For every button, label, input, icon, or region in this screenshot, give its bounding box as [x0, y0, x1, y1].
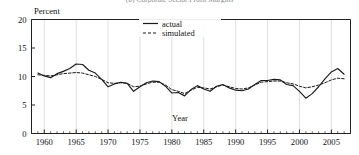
x-tick-label: 2005	[323, 137, 340, 147]
x-axis-ticks	[44, 130, 331, 134]
series-line-actual	[38, 64, 344, 98]
x-tick-label: 1975	[131, 137, 148, 147]
x-tick-label: 1990	[227, 137, 244, 147]
x-axis-label: Year	[172, 113, 188, 123]
x-tick-label: 2000	[291, 137, 308, 147]
x-tick-label: 1985	[195, 137, 212, 147]
legend-label-simulated: simulated	[162, 29, 195, 38]
x-axis-tick-labels: 1960196519701975198019851990199520002005	[36, 137, 340, 147]
legend-label-actual: actual	[162, 20, 183, 29]
y-axis-ticks	[32, 20, 36, 134]
x-tick-label: 1980	[163, 137, 180, 147]
y-axis-tick-labels: 05101520	[18, 15, 27, 139]
y-axis-label: Percent	[34, 6, 60, 16]
chart-canvas: 05101520 1960196519701975198019851990199…	[0, 0, 359, 155]
y-tick-label: 10	[18, 72, 27, 82]
y-tick-label: 15	[18, 43, 27, 53]
y-tick-label: 5	[22, 100, 26, 110]
figure-title: (b) Corporate Sector Profit Margins	[0, 0, 359, 3]
data-series-layer	[38, 64, 344, 98]
x-tick-label: 1965	[68, 137, 85, 147]
figure-container: (b) Corporate Sector Profit Margins 0510…	[0, 0, 359, 155]
y-tick-label: 0	[22, 129, 26, 139]
x-tick-label: 1995	[259, 137, 276, 147]
x-tick-label: 1960	[36, 137, 53, 147]
chart-legend: actual simulated	[139, 17, 221, 38]
x-tick-label: 1970	[99, 137, 116, 147]
y-tick-label: 20	[18, 15, 27, 25]
